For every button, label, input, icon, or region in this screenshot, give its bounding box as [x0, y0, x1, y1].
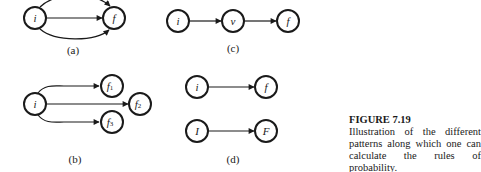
node-d-F-label: F [262, 125, 270, 137]
edge-a-bottom [40, 29, 109, 39]
panel-b-label: (b) [69, 153, 82, 166]
edge-b-f1 [38, 86, 99, 93]
caption-title: FIGURE 7.19 [349, 113, 481, 126]
panel-a: i f (a) [24, 0, 125, 57]
node-b-i-label: i [33, 98, 36, 110]
node-c-i-label: i [176, 15, 179, 27]
figure-caption: FIGURE 7.19 Illustration of the differen… [349, 113, 481, 172]
caption-text: Illustration of the different patterns a… [349, 126, 481, 172]
node-c-v-label: v [231, 15, 236, 27]
edge-a-top [40, 0, 110, 7]
panel-d-label: (d) [227, 153, 240, 166]
panel-b: i f1 f2 f3 (b) [24, 75, 151, 166]
node-d-i-label: i [195, 81, 198, 93]
panel-c-label: (c) [227, 42, 240, 55]
node-a-i-label: i [33, 12, 36, 24]
panel-d: i f I F (d) [186, 76, 277, 166]
edge-b-f3 [38, 115, 99, 122]
panel-a-label: (a) [67, 44, 80, 57]
panel-c: i v f (c) [167, 10, 299, 55]
